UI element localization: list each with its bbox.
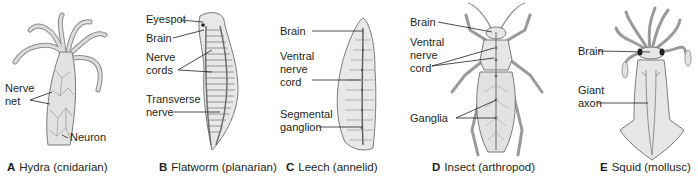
panel-insect: Brain Ventral nerve cord Ganglia DInsect… xyxy=(400,0,560,182)
caption-text: Flatworm (planarian) xyxy=(171,161,276,173)
caption-text: Leech (annelid) xyxy=(298,161,377,173)
caption-text: Squid (mollusc) xyxy=(612,161,691,173)
caption-hydra: AHydra (cnidarian) xyxy=(7,161,108,173)
label-transverse-nerve: Transverse nerve xyxy=(146,93,201,119)
caption-squid: ESquid (mollusc) xyxy=(600,161,691,173)
caption-leech: CLeech (annelid) xyxy=(286,161,378,173)
panel-letter: A xyxy=(7,161,15,173)
panel-letter: C xyxy=(286,161,294,173)
panel-flatworm: Eyespot Brain Nerve cords Transverse ner… xyxy=(140,0,275,182)
label-ventral-nerve-cord: Ventral nerve cord xyxy=(410,36,444,75)
label-nerve-cords: Nerve cords xyxy=(146,51,175,77)
caption-text: Insect (arthropod) xyxy=(444,161,535,173)
label-brain: Brain xyxy=(578,45,604,58)
panel-letter: B xyxy=(159,161,167,173)
caption-insect: DInsect (arthropod) xyxy=(432,161,535,173)
label-brain: Brain xyxy=(146,32,172,45)
label-eyespot: Eyespot xyxy=(146,13,186,26)
panel-leech: Brain Ventral nerve cord Segmental gangl… xyxy=(275,0,400,182)
panel-hydra: Nerve net Neuron AHydra (cnidarian) xyxy=(0,0,140,182)
panel-squid: Brain Giant axon ESquid (mollusc) xyxy=(560,0,698,182)
label-neuron: Neuron xyxy=(70,131,106,144)
label-brain: Brain xyxy=(280,25,306,38)
label-nerve-net: Nerve net xyxy=(5,82,34,108)
caption-flatworm: BFlatworm (planarian) xyxy=(159,161,277,173)
label-ventral-nerve-cord: Ventral nerve cord xyxy=(280,50,314,89)
label-segmental-ganglion: Segmental ganglion xyxy=(280,108,333,134)
panel-letter: E xyxy=(600,161,608,173)
label-ganglia: Ganglia xyxy=(410,112,448,125)
flatworm-illustration xyxy=(140,0,275,182)
label-brain: Brain xyxy=(410,16,436,29)
caption-text: Hydra (cnidarian) xyxy=(19,161,107,173)
panel-letter: D xyxy=(432,161,440,173)
label-giant-axon: Giant axon xyxy=(578,84,604,110)
